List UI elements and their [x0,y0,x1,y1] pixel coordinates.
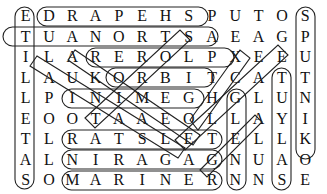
grid-cell[interactable]: Y [270,109,293,130]
grid-cell[interactable]: A [130,109,153,130]
grid-cell[interactable]: X [224,47,247,68]
grid-cell[interactable]: R [61,6,84,27]
grid-cell[interactable]: M [61,170,84,191]
grid-cell[interactable]: I [294,109,317,130]
grid-cell[interactable]: O [37,170,60,191]
grid-cell[interactable]: C [224,68,247,89]
grid-cell[interactable]: N [224,150,247,171]
grid-cell[interactable]: L [270,129,293,150]
grid-cell[interactable]: B [154,68,177,89]
grid-cell[interactable]: L [200,109,223,130]
grid-cell[interactable]: T [294,68,317,89]
grid-cell[interactable]: I [14,47,37,68]
grid-cell[interactable]: I [177,68,200,89]
grid-cell[interactable]: U [270,88,293,109]
grid-cell[interactable]: A [130,150,153,171]
grid-cell[interactable]: S [177,27,200,48]
grid-cell[interactable]: G [200,150,223,171]
grid-cell[interactable]: R [130,47,153,68]
grid-cell[interactable]: T [14,129,37,150]
grid-cell[interactable]: A [247,109,270,130]
grid-cell[interactable]: E [224,129,247,150]
grid-cell[interactable]: G [224,88,247,109]
grid-cell[interactable]: T [14,27,37,48]
grid-cell[interactable]: I [84,150,107,171]
grid-cell[interactable]: G [270,27,293,48]
grid-cell[interactable]: N [294,88,317,109]
grid-cell[interactable]: A [107,109,130,130]
grid-cell[interactable]: M [130,88,153,109]
grid-cell[interactable]: P [294,27,317,48]
grid-cell[interactable]: E [14,109,37,130]
grid-cell[interactable]: N [84,88,107,109]
grid-cell[interactable]: R [200,170,223,191]
grid-cell[interactable]: I [107,88,130,109]
grid-cell[interactable]: E [294,170,317,191]
grid-cell[interactable]: L [14,68,37,89]
grid-cell[interactable]: E [107,47,130,68]
grid-cell[interactable]: L [37,47,60,68]
grid-cell[interactable]: R [107,150,130,171]
grid-cell[interactable]: N [154,170,177,191]
grid-cell[interactable]: H [200,88,223,109]
grid-cell[interactable]: O [177,109,200,130]
grid-cell[interactable]: H [154,6,177,27]
grid-cell[interactable]: L [14,88,37,109]
grid-cell[interactable]: G [177,88,200,109]
grid-cell[interactable]: U [61,68,84,89]
grid-cell[interactable]: N [61,150,84,171]
grid-cell[interactable]: N [224,170,247,191]
grid-cell[interactable]: A [84,170,107,191]
grid-cell[interactable]: L [224,109,247,130]
grid-cell[interactable]: E [154,88,177,109]
grid-cell[interactable]: L [177,47,200,68]
grid-cell[interactable]: L [247,88,270,109]
grid-cell[interactable]: P [200,47,223,68]
grid-cell[interactable]: S [294,6,317,27]
grid-cell[interactable]: A [84,129,107,150]
grid-cell[interactable]: A [247,68,270,89]
grid-cell[interactable]: R [84,47,107,68]
grid-cell[interactable]: T [200,68,223,89]
grid-cell[interactable]: U [37,27,60,48]
grid-cell[interactable]: E [177,170,200,191]
grid-cell[interactable]: O [61,109,84,130]
grid-cell[interactable]: A [177,150,200,171]
grid-cell[interactable]: A [84,6,107,27]
grid-cell[interactable]: U [247,150,270,171]
grid-cell[interactable]: L [37,150,60,171]
grid-cell[interactable]: O [270,6,293,27]
grid-cell[interactable]: L [247,129,270,150]
grid-cell[interactable]: U [294,47,317,68]
grid-cell[interactable]: U [224,6,247,27]
grid-cell[interactable]: O [154,47,177,68]
grid-cell[interactable]: T [247,6,270,27]
grid-cell[interactable]: G [154,150,177,171]
grid-cell[interactable]: E [154,109,177,130]
grid-cell[interactable]: P [107,6,130,27]
grid-cell[interactable]: K [294,129,317,150]
grid-cell[interactable]: O [107,68,130,89]
grid-cell[interactable]: A [61,47,84,68]
grid-cell[interactable]: O [37,109,60,130]
grid-cell[interactable]: K [84,68,107,89]
grid-cell[interactable]: E [130,6,153,27]
grid-cell[interactable]: R [130,27,153,48]
grid-cell[interactable]: S [130,129,153,150]
grid-cell[interactable]: S [270,170,293,191]
grid-cell[interactable]: P [37,88,60,109]
grid-cell[interactable]: I [130,170,153,191]
grid-cell[interactable]: E [177,129,200,150]
grid-cell[interactable]: E [247,47,270,68]
grid-cell[interactable]: R [130,68,153,89]
grid-cell[interactable]: A [37,68,60,89]
grid-cell[interactable]: N [247,170,270,191]
grid-cell[interactable]: E [224,27,247,48]
grid-cell[interactable]: T [200,129,223,150]
grid-cell[interactable]: T [107,129,130,150]
grid-cell[interactable]: T [270,68,293,89]
grid-cell[interactable]: L [37,129,60,150]
grid-cell[interactable]: R [61,129,84,150]
grid-cell[interactable]: I [61,88,84,109]
grid-cell[interactable]: T [154,27,177,48]
